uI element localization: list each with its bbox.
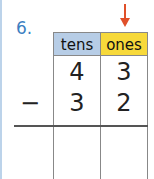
subtrahend-ones: 2 [101,89,147,117]
sum-line [14,125,148,127]
answer-tens-field[interactable] [54,135,100,165]
question-number: 6. [16,18,32,38]
table-border-right [147,56,148,179]
minus-sign: − [20,89,40,117]
minuend-tens: 4 [54,58,100,86]
page-edge [0,0,2,179]
minuend-ones: 3 [101,58,147,86]
tens-header: tens [53,32,101,56]
down-arrow-icon [119,4,131,28]
ones-header: ones [100,32,148,56]
subtrahend-tens: 3 [54,89,100,117]
answer-ones-field[interactable] [101,135,147,165]
